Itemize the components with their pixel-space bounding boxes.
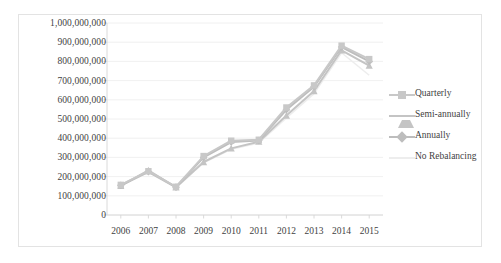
data-point-marker: [338, 42, 344, 48]
data-point-marker: [283, 104, 289, 110]
x-axis-tick-label: 2006: [111, 226, 130, 236]
legend-label: Annually: [415, 130, 450, 142]
y-axis-tick-label: 100,000,000: [57, 191, 106, 201]
x-axis-tick-label: 2009: [194, 226, 213, 236]
x-axis-tick-label: 2015: [360, 226, 379, 236]
y-axis-tick-label: 400,000,000: [57, 133, 106, 143]
y-axis-tick-label: 0: [101, 210, 106, 220]
x-axis-tick-label: 2014: [332, 226, 351, 236]
y-axis-tick-label: 800,000,000: [57, 56, 106, 66]
x-axis-tick-label: 2011: [249, 226, 268, 236]
data-point-marker: [173, 184, 179, 190]
legend-label: Quarterly: [415, 88, 451, 100]
data-point-marker: [200, 153, 206, 159]
y-axis-tick-label: 500,000,000: [57, 114, 106, 124]
x-axis-tick-labels: 2006200720082009201020112012201320142015: [0, 226, 501, 242]
legend-item-no-rebalancing[interactable]: No Rebalancing: [389, 151, 485, 163]
legend-item-annually[interactable]: Annually: [389, 130, 485, 142]
y-axis-tick-label: 300,000,000: [57, 152, 106, 162]
y-axis-tick-label: 200,000,000: [57, 172, 106, 182]
x-axis-tick-label: 2012: [277, 226, 296, 236]
data-point-marker: [145, 168, 151, 174]
y-axis-tick-label: 600,000,000: [57, 95, 106, 105]
series-layer: [117, 42, 373, 191]
y-axis-tick-label: 900,000,000: [57, 37, 106, 47]
legend-marker-square-icon: [389, 89, 415, 100]
data-point-marker: [311, 82, 317, 88]
legend-item-quarterly[interactable]: Quarterly: [389, 88, 485, 100]
x-axis-tick-label: 2010: [222, 226, 241, 236]
legend-marker-line-icon: [389, 152, 415, 163]
legend-item-semi-annually[interactable]: Semi-annually: [389, 109, 485, 121]
x-axis-tick-label: 2013: [305, 226, 324, 236]
data-point-marker: [118, 182, 124, 188]
series-line: [121, 53, 369, 188]
chart-legend: Quarterly Semi-annually Annually No Reba…: [389, 88, 485, 172]
legend-marker-triangle-icon: [389, 110, 415, 121]
data-point-marker: [228, 137, 234, 143]
x-axis-tick-label: 2008: [167, 226, 186, 236]
y-axis-tick-label: 700,000,000: [57, 76, 106, 86]
legend-label: No Rebalancing: [415, 151, 476, 163]
legend-marker-diamond-icon: [389, 131, 415, 142]
y-axis-tick-label: 1,000,000,000: [50, 18, 106, 28]
data-point-marker: [366, 56, 372, 62]
data-point-marker: [256, 137, 262, 143]
legend-label: Semi-annually: [415, 109, 470, 121]
x-axis-tick-label: 2007: [139, 226, 158, 236]
y-axis-tick-labels: 0100,000,000200,000,000300,000,000400,00…: [18, 0, 106, 263]
